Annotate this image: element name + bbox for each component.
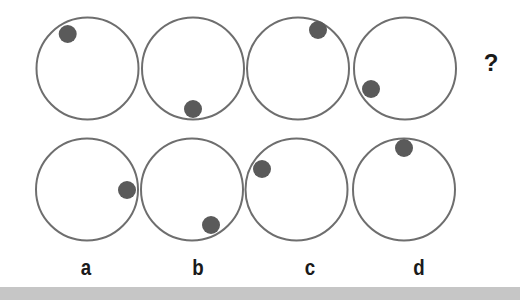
- option-label-d[interactable]: d: [413, 257, 424, 279]
- ring-circle: [37, 18, 139, 120]
- ring-circle[interactable]: [141, 139, 243, 241]
- sequence-circle-4: [354, 18, 456, 120]
- question-mark: ?: [484, 51, 499, 75]
- ring-circle: [247, 18, 349, 120]
- dot-marker: [253, 160, 271, 178]
- option-label-a[interactable]: a: [81, 257, 91, 279]
- ring-circle: [354, 18, 456, 120]
- dot-marker: [362, 80, 380, 98]
- dot-marker: [309, 21, 327, 39]
- dot-marker: [184, 100, 202, 118]
- dot-marker: [202, 216, 220, 234]
- ring-circle[interactable]: [246, 139, 348, 241]
- option-label-c[interactable]: c: [305, 257, 315, 279]
- option-label-b[interactable]: b: [192, 257, 203, 279]
- option-circle-c[interactable]: [246, 139, 348, 241]
- option-circle-d[interactable]: [353, 139, 455, 241]
- puzzle-stage: ? a b c d: [0, 0, 520, 300]
- dot-marker: [118, 181, 136, 199]
- bottom-bar: [0, 287, 520, 300]
- sequence-circle-3: [247, 18, 349, 120]
- puzzle-figure: [0, 0, 520, 300]
- option-circle-b[interactable]: [141, 139, 243, 241]
- dot-marker: [59, 25, 77, 43]
- sequence-circle-2: [142, 18, 244, 120]
- dot-marker: [395, 139, 413, 157]
- sequence-circle-1: [37, 18, 139, 120]
- option-circle-a[interactable]: [36, 139, 138, 241]
